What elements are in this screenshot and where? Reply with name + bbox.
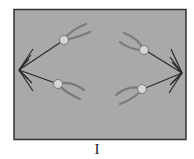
diagram-label: I <box>0 140 194 158</box>
centromere-upper-left <box>60 36 69 45</box>
cell-diagram <box>0 0 194 159</box>
centromere-lower-left <box>54 80 63 89</box>
cell-boundary <box>14 10 186 140</box>
centromere-upper-right <box>140 46 149 55</box>
centromere-lower-right <box>138 85 147 94</box>
